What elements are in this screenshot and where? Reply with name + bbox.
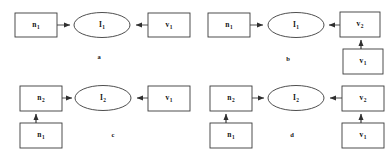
node-label-v2: v2 — [360, 94, 367, 102]
node-label-v1: v1 — [360, 131, 367, 139]
node-label-n1: n1 — [225, 21, 232, 29]
node-label-v1: v1 — [166, 21, 173, 29]
panel-d: n2 I2 v2 n1 v1 d — [195, 78, 390, 156]
node-label-v1: v1 — [360, 57, 367, 65]
panel-caption-d: d — [290, 132, 294, 139]
node-label-n2: n2 — [227, 94, 234, 102]
node-label-n1: n1 — [32, 21, 39, 29]
causal-diagram-figure: n1 I1 v1 a — [0, 0, 390, 156]
node-label-n1: n1 — [227, 131, 234, 139]
node-label-v1: v1 — [166, 94, 173, 102]
panel-a: n1 I1 v1 a — [0, 0, 195, 78]
node-label-I1: I1 — [293, 21, 299, 29]
panel-b: n1 I1 v2 v1 b — [195, 0, 390, 78]
node-label-v2: v2 — [357, 20, 364, 28]
panel-caption-b: b — [286, 56, 290, 63]
node-label-I2: I2 — [293, 94, 299, 102]
panel-caption-c: c — [112, 132, 115, 139]
node-label-n2: n2 — [37, 94, 44, 102]
node-label-I2: I2 — [100, 94, 106, 102]
node-label-n1: n1 — [37, 131, 44, 139]
panel-caption-a: a — [97, 54, 100, 61]
panel-c: n2 I2 v1 n1 c — [0, 78, 195, 156]
node-label-I1: I1 — [99, 21, 105, 29]
